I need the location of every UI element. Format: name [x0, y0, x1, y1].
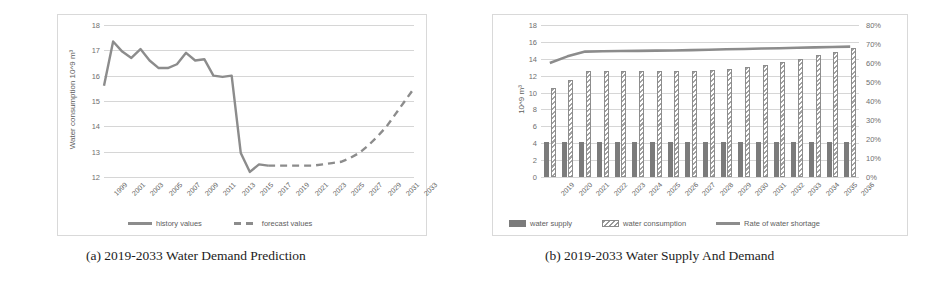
- caption-a: (a) 2019-2033 Water Demand Prediction: [86, 248, 306, 264]
- legend-item-history-values: history values: [128, 219, 202, 228]
- y-axis-tick-label: 16: [78, 71, 100, 80]
- dashed-line-icon: [234, 222, 258, 225]
- series-line-0: [104, 41, 268, 171]
- x-axis-tick-label: 2013: [240, 181, 256, 197]
- secondary-y-axis-tick-label: 30%: [866, 116, 881, 125]
- hatched-bar-icon: [602, 220, 619, 227]
- legend-label-water-supply: water supply: [530, 219, 572, 228]
- x-axis-tick-label: 2005: [167, 181, 183, 197]
- x-axis-tick-label: 2019: [559, 181, 575, 197]
- y-axis-tick-label: 6: [515, 122, 537, 131]
- x-axis-tick-label: 2036: [860, 181, 876, 197]
- secondary-y-axis-tick-label: 50%: [866, 78, 881, 87]
- x-axis-tick-label: 2033: [807, 181, 823, 197]
- y-axis-tick-label: 4: [515, 139, 537, 148]
- x-axis-tick-label: 2023: [331, 181, 347, 197]
- y-axis-tick-label: 13: [78, 147, 100, 156]
- y-axis-tick-label: 12: [78, 173, 100, 182]
- x-axis-tick-label: 2032: [789, 181, 805, 197]
- y-axis-tick-label: 16: [515, 37, 537, 46]
- legend-item-water-consumption: water consumption: [602, 219, 686, 228]
- series-line-1: [268, 88, 414, 165]
- line-series-a: [104, 25, 414, 177]
- legend-item-water-supply: water supply: [509, 219, 572, 228]
- secondary-y-axis-tick-label: 40%: [866, 97, 881, 106]
- gridline: [104, 177, 414, 178]
- legend-a: history values forecast values: [128, 219, 312, 228]
- legend-item-forecast-values: forecast values: [234, 219, 312, 228]
- figure-container: Water consumption 10^9 m³ 12131415161718…: [0, 0, 947, 291]
- y-axis-tick-label: 14: [515, 54, 537, 63]
- y-axis-tick-label: 8: [515, 105, 537, 114]
- y-axis-tick-label: 15: [78, 97, 100, 106]
- x-axis-tick-label: 2009: [204, 181, 220, 197]
- secondary-y-axis-tick-label: 20%: [866, 135, 881, 144]
- x-axis-tick-label: 2022: [612, 181, 628, 197]
- rate-line-icon: [716, 222, 740, 225]
- x-axis-tick-label: 2003: [149, 181, 165, 197]
- y-axis-tick-label: 14: [78, 122, 100, 131]
- x-axis-tick-label: 2021: [595, 181, 611, 197]
- rate-line-series-b: [541, 25, 859, 177]
- caption-b: (b) 2019-2033 Water Supply And Demand: [545, 248, 774, 264]
- y-axis-tick-label: 17: [78, 46, 100, 55]
- legend-item-rate-of-water-shortage: Rate of water shortage: [716, 219, 820, 228]
- legend-b: water supply water consumption Rate of w…: [509, 219, 820, 228]
- x-axis-tick-label: 1999: [113, 181, 129, 197]
- x-axis-tick-label: 2011: [222, 181, 238, 197]
- y-axis-tick-label: 18: [78, 21, 100, 30]
- secondary-y-axis-tick-label: 70%: [866, 40, 881, 49]
- x-axis-tick-label: 2007: [186, 181, 202, 197]
- solid-bar-icon: [509, 220, 526, 227]
- x-axis-tick-label: 2029: [386, 181, 402, 197]
- x-axis-tick-label: 2029: [736, 181, 752, 197]
- x-axis-tick-label: 2035: [842, 181, 858, 197]
- x-axis-tick-label: 2023: [630, 181, 646, 197]
- x-axis-tick-label: 2027: [368, 181, 384, 197]
- x-axis-tick-label: 2021: [313, 181, 329, 197]
- y-axis-tick-label: 0: [515, 173, 537, 182]
- x-axis-tick-label: 2017: [277, 181, 293, 197]
- gridline: [541, 177, 859, 178]
- x-axis-tick-label: 2028: [718, 181, 734, 197]
- y-axis-tick-label: 10: [515, 88, 537, 97]
- x-axis-tick-label: 2031: [771, 181, 787, 197]
- legend-label-forecast-values: forecast values: [262, 219, 312, 228]
- x-axis-tick-label: 2034: [824, 181, 840, 197]
- x-axis-tick-label: 2025: [665, 181, 681, 197]
- x-axis-tick-label: 2031: [404, 181, 420, 197]
- chart-panel-b: 10^9 m³ 024681012141618 0%10%20%30%40%50…: [492, 14, 908, 236]
- x-axis-tick-label: 2030: [754, 181, 770, 197]
- legend-label-water-consumption: water consumption: [623, 219, 686, 228]
- y-axis-tick-label: 18: [515, 21, 537, 30]
- chart-panel-a: Water consumption 10^9 m³ 12131415161718…: [57, 14, 427, 236]
- x-axis-tick-label: 2025: [350, 181, 366, 197]
- solid-line-icon: [128, 222, 152, 225]
- secondary-y-axis-tick-label: 0%: [866, 173, 877, 182]
- x-axis-tick-label: 2019: [295, 181, 311, 197]
- x-axis-tick-label: 2001: [131, 181, 147, 197]
- x-axis-tick-label: 2026: [683, 181, 699, 197]
- y-axis-tick-label: 12: [515, 71, 537, 80]
- y-axis-tick-label: 2: [515, 156, 537, 165]
- x-axis-tick-label: 2027: [701, 181, 717, 197]
- legend-label-rate-of-water-shortage: Rate of water shortage: [744, 219, 820, 228]
- y-axis-title-a: Water consumption 10^9 m³: [68, 40, 77, 160]
- x-axis-tick-label: 2015: [258, 181, 274, 197]
- secondary-y-axis-tick-label: 80%: [866, 21, 881, 30]
- x-axis-tick-label: 2020: [577, 181, 593, 197]
- secondary-y-axis-tick-label: 10%: [866, 154, 881, 163]
- series-line-rate-of-water-shortage: [550, 47, 850, 63]
- secondary-y-axis-tick-label: 60%: [866, 59, 881, 68]
- x-axis-tick-label: 2033: [423, 181, 439, 197]
- legend-label-history-values: history values: [156, 219, 202, 228]
- x-axis-tick-label: 2024: [648, 181, 664, 197]
